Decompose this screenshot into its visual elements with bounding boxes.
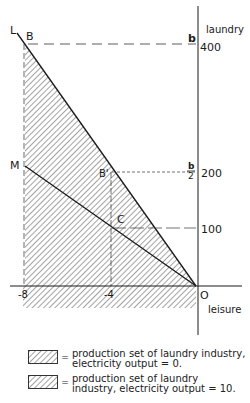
- legend: = production set of laundry industry, el…: [28, 349, 250, 399]
- y-tick-400: 400: [200, 41, 221, 54]
- y-tick-100: 100: [201, 223, 222, 236]
- legend-item-electricity-0: = production set of laundry industry, el…: [28, 349, 250, 369]
- point-B-prime-label: B': [99, 168, 109, 179]
- legend-swatch-hatch-10: [28, 375, 58, 389]
- production-set-diagram: laundry leisure O 400 200 100 -8 -4 L B …: [0, 0, 250, 340]
- legend-description: production set of laundry industry, elec…: [72, 374, 250, 394]
- legend-equals: =: [58, 352, 72, 362]
- legend-item-electricity-10: = production set of laundry industry, el…: [28, 374, 250, 394]
- x-tick-minus4: -4: [104, 289, 114, 300]
- point-b-half-denominator: 2: [188, 171, 194, 181]
- point-b-label: b: [188, 32, 196, 45]
- legend-swatch-hatch-0: [28, 350, 58, 364]
- x-axis-label: leisure: [208, 304, 241, 315]
- x-tick-minus8: -8: [18, 289, 28, 300]
- y-tick-200: 200: [201, 167, 222, 180]
- point-L-label: L: [10, 24, 17, 37]
- legend-equals: =: [58, 377, 72, 387]
- legend-description: production set of laundry industry, elec…: [72, 349, 250, 369]
- point-B-label: B: [26, 30, 34, 43]
- legend-line2: electricity output = 0.: [72, 359, 250, 369]
- point-M-label: M: [10, 159, 20, 172]
- legend-line2: industry, electricity output = 10.: [72, 384, 250, 394]
- point-C-label: C: [117, 213, 125, 226]
- origin-label: O: [200, 289, 209, 302]
- point-b-half-numerator: b: [188, 161, 195, 171]
- y-axis-label: laundry: [206, 24, 244, 35]
